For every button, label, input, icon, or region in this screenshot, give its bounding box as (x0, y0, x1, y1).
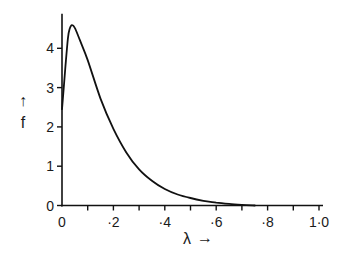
y-tick-label: 1 (46, 158, 54, 174)
x-tick-label: ·8 (261, 214, 274, 230)
x-tick-label: ·2 (107, 214, 120, 230)
x-ticks: 0·2·4·6·81·0 (58, 206, 329, 230)
x-tick-label: 0 (58, 214, 66, 230)
y-tick-label: 3 (46, 80, 54, 96)
y-ticks: 01234 (46, 40, 62, 213)
x-tick-label: ·6 (210, 214, 223, 230)
y-tick-label: 2 (46, 119, 54, 135)
y-tick-label: 4 (46, 40, 54, 56)
x-tick-label: ·4 (159, 214, 172, 230)
data-curve (62, 25, 255, 205)
chart: 01234 0·2·4·6·81·0 ↑ f λ → (0, 0, 343, 257)
y-axis-label: f (21, 114, 26, 131)
y-axis-arrow-icon: ↑ (19, 92, 27, 109)
y-tick-label: 0 (46, 198, 54, 214)
x-axis-label: λ (183, 230, 191, 247)
x-tick-label: 1·0 (309, 214, 329, 230)
x-axis-arrow-icon: → (197, 229, 213, 246)
